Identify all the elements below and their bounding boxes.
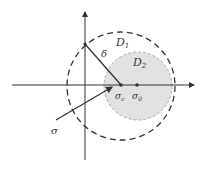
point-sigma-c — [119, 83, 123, 87]
diagram-canvas: D1 D2 δ σ σc σ0 — [0, 0, 205, 171]
sigma-arrow — [56, 87, 112, 120]
label-d1: D1 — [115, 36, 129, 50]
point-delta-end — [83, 42, 86, 45]
point-sigma-0 — [135, 83, 139, 87]
label-delta: δ — [101, 48, 107, 59]
label-sigma: σ — [51, 125, 59, 136]
